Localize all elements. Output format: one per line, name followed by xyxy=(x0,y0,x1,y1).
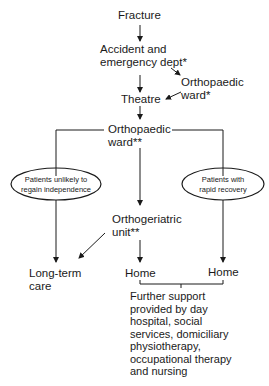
node-fracture: Fracture xyxy=(118,9,161,22)
node-orthoger-line1: Orthogeriatric xyxy=(112,213,182,226)
node-rapid-line2: rapid recovery xyxy=(188,185,258,194)
node-home-center: Home xyxy=(125,267,156,280)
support-line: physiotherapy, xyxy=(130,340,232,353)
support-text: Further support provided by day hospital… xyxy=(130,290,232,378)
node-ae-line1: Accident and xyxy=(100,43,167,56)
node-home-right: Home xyxy=(208,266,239,279)
node-unlikely-line1: Patients unlikely to xyxy=(16,175,96,184)
node-ae-line2: emergency dept* xyxy=(100,56,187,69)
support-line: occupational therapy xyxy=(130,353,232,366)
support-line: services, domiciliary xyxy=(130,328,232,341)
node-rapid-line1: Patients with xyxy=(188,175,258,184)
support-line: provided by day xyxy=(130,303,232,316)
support-line: and nursing xyxy=(130,365,232,378)
node-ortho-ward2-line2: ward** xyxy=(108,136,142,149)
node-orthoger-line2: unit** xyxy=(112,226,140,239)
node-theatre: Theatre xyxy=(121,93,161,106)
node-ortho-ward1-line2: ward* xyxy=(181,89,210,102)
node-ortho-ward2-line1: Orthopaedic xyxy=(108,123,171,136)
node-longterm-line1: Long-term xyxy=(29,267,81,280)
support-line: Further support xyxy=(130,290,232,303)
node-unlikely-line2: regain independence xyxy=(16,185,96,194)
node-longterm-line2: care xyxy=(29,280,51,293)
support-line: hospital, social xyxy=(130,315,232,328)
node-ortho-ward1-line1: Orthopaedic xyxy=(181,76,244,89)
